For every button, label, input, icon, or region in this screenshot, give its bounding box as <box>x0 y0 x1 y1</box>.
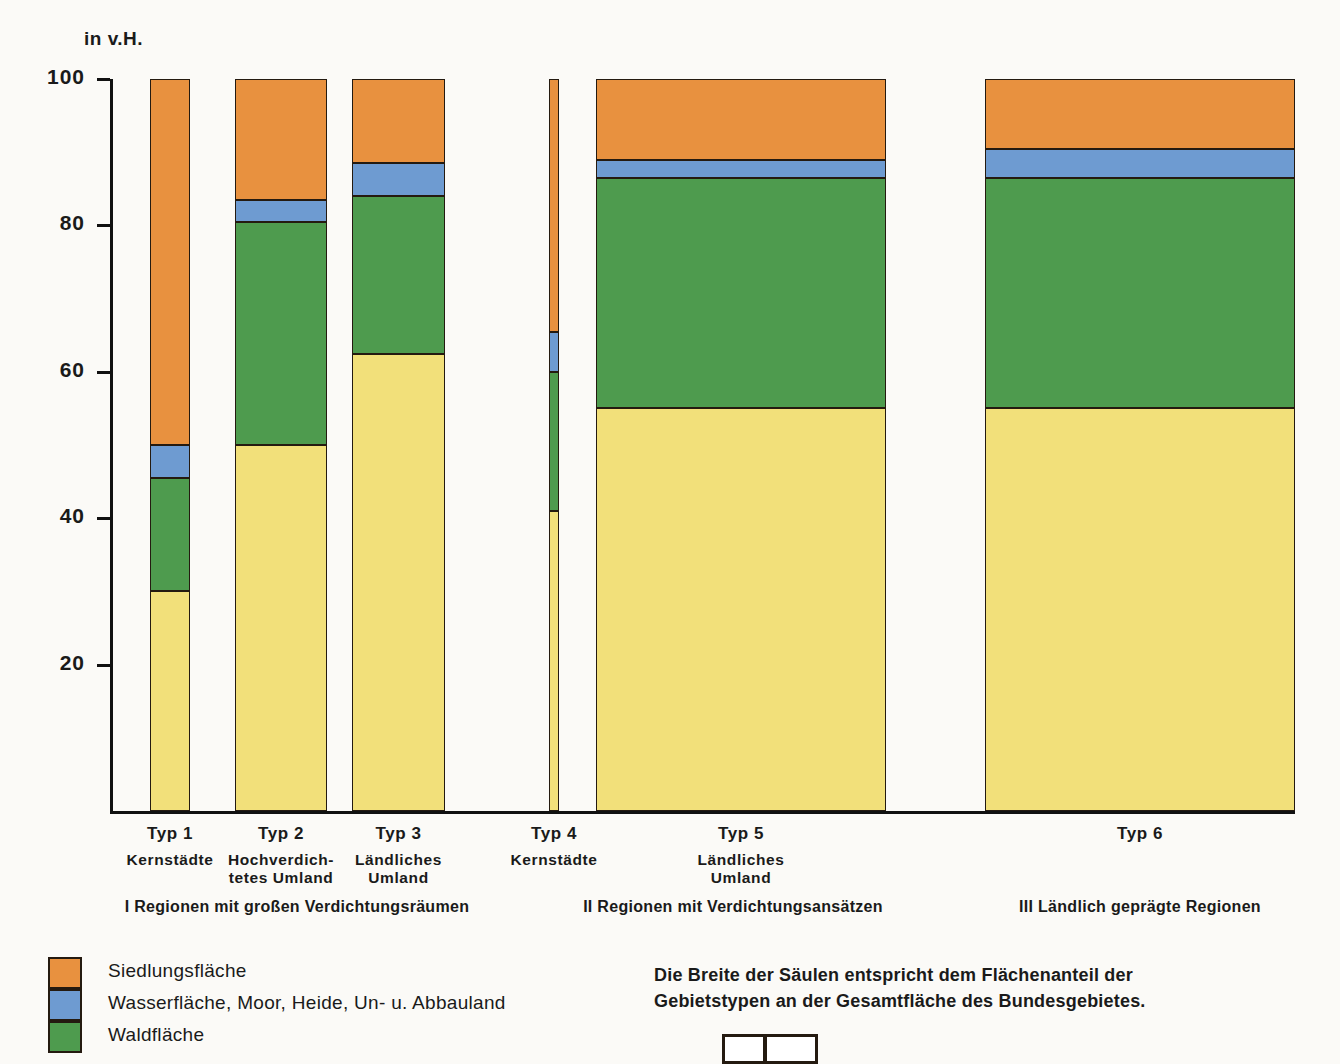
legend-label-wasser: Wasserfläche, Moor, Heide, Un- u. Abbaul… <box>108 992 506 1014</box>
bar-segment-0[interactable] <box>352 354 445 812</box>
legend-label-siedlung: Siedlungsfläche <box>108 960 247 982</box>
bar-segment-3[interactable] <box>985 79 1295 149</box>
bar-segment-3[interactable] <box>352 79 445 163</box>
bar-segment-0[interactable] <box>235 445 327 811</box>
legend-swatch-wasser <box>48 989 82 1021</box>
bar-segment-1[interactable] <box>549 372 559 511</box>
legend-swatch-siedlung <box>48 957 82 989</box>
bar-segment-1[interactable] <box>150 478 190 591</box>
bar-segment-2[interactable] <box>985 149 1295 178</box>
y-tick-mark <box>97 78 110 81</box>
bar-segment-0[interactable] <box>150 591 190 811</box>
legend-label-wald: Waldfläche <box>108 1024 204 1046</box>
bar-segment-3[interactable] <box>150 79 190 445</box>
y-tick-label: 20 <box>25 651 85 675</box>
bar-segment-2[interactable] <box>352 163 445 196</box>
bar-segment-0[interactable] <box>596 408 886 811</box>
y-axis-unit-label: in v.H. <box>84 28 143 50</box>
bar-segment-2[interactable] <box>596 160 886 178</box>
group-label-3: III Ländlich geprägte Regionen <box>860 898 1340 916</box>
stacked-bar[interactable] <box>235 79 327 811</box>
scale-reference-box <box>722 1034 818 1064</box>
legend-swatch-wald <box>48 1021 82 1053</box>
bar-segment-1[interactable] <box>596 178 886 409</box>
stacked-bar[interactable] <box>352 79 445 811</box>
bar-segment-3[interactable] <box>596 79 886 160</box>
bar-segment-1[interactable] <box>352 196 445 353</box>
stacked-bar[interactable] <box>150 79 190 811</box>
bar-segment-3[interactable] <box>549 79 559 332</box>
y-axis-line <box>110 79 113 813</box>
bar-segment-1[interactable] <box>985 178 1295 409</box>
category-subtitle: Ländliches Umland <box>631 851 851 887</box>
y-tick-mark <box>97 517 110 520</box>
x-axis-line <box>110 811 1295 814</box>
width-note: Die Breite der Säulen entspricht dem Flä… <box>654 962 1146 1014</box>
y-tick-label: 100 <box>25 65 85 89</box>
bar-segment-2[interactable] <box>150 445 190 478</box>
y-tick-mark <box>97 664 110 667</box>
bar-segment-2[interactable] <box>549 332 559 372</box>
category-title: Typ 5 <box>631 824 851 844</box>
stacked-bar[interactable] <box>549 79 559 811</box>
y-tick-mark <box>97 371 110 374</box>
stacked-bar[interactable] <box>985 79 1295 811</box>
y-tick-label: 40 <box>25 504 85 528</box>
bar-segment-1[interactable] <box>235 222 327 445</box>
category-label-5: Typ 5Ländliches Umland <box>631 824 851 887</box>
stacked-bar[interactable] <box>596 79 886 811</box>
category-title: Typ 6 <box>1030 824 1250 844</box>
y-tick-label: 60 <box>25 358 85 382</box>
bar-segment-2[interactable] <box>235 200 327 222</box>
bar-segment-3[interactable] <box>235 79 327 200</box>
y-tick-mark <box>97 224 110 227</box>
category-label-6: Typ 6 <box>1030 824 1250 851</box>
bar-segment-0[interactable] <box>549 511 559 811</box>
y-tick-label: 80 <box>25 211 85 235</box>
bar-segment-0[interactable] <box>985 408 1295 811</box>
